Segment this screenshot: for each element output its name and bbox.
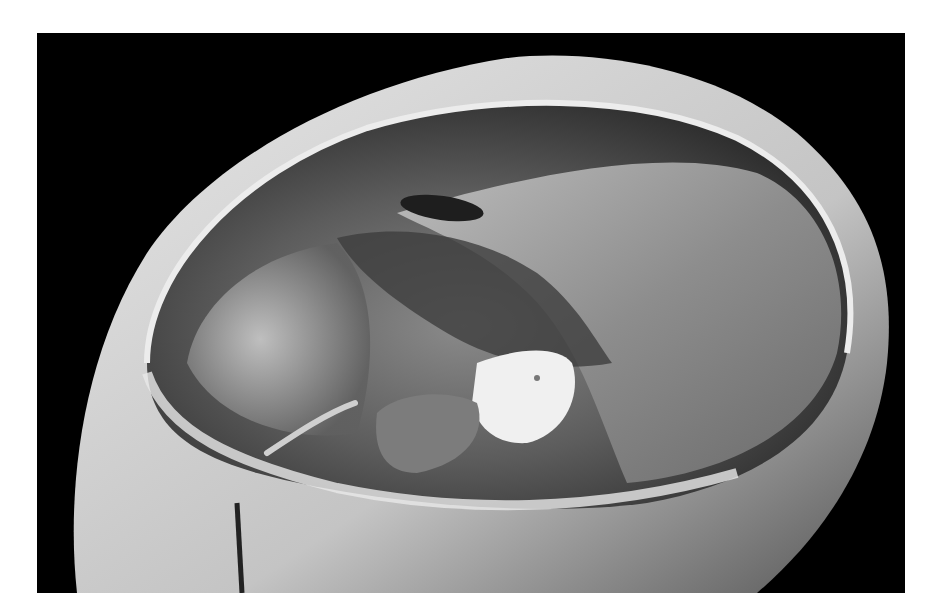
skull-illustration — [37, 33, 905, 593]
specimen-photo — [37, 33, 905, 593]
brainstem-canal — [534, 375, 540, 381]
